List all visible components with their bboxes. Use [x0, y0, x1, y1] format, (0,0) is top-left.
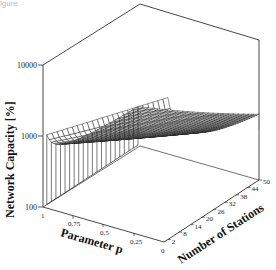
x-tick: 1 — [41, 212, 45, 220]
surface-chart: igure 10000 1000 100 Network Capacity [%… — [0, 0, 276, 270]
z-tick-10000: 10000 — [17, 61, 37, 70]
y-tick: 20 — [206, 215, 214, 223]
y-tick: 32 — [229, 200, 237, 208]
x-tick: 0,25 — [130, 238, 143, 246]
z-tick-1000: 1000 — [21, 132, 37, 141]
y-tick: 26 — [217, 208, 225, 216]
y-tick: 50 — [263, 178, 271, 186]
x-axis-label: Parameter p — [59, 225, 125, 256]
y-tick: 2 — [172, 238, 176, 246]
z-axis-label: Network Capacity [%] — [3, 101, 17, 218]
wireframe-surface — [47, 98, 259, 205]
y-origin-tick: 0 — [161, 247, 165, 255]
caption-fragment: igure — [0, 0, 18, 8]
x-axis: 1 0,75 0,5 0,25 Parameter p — [41, 212, 143, 257]
y-tick: 8 — [183, 230, 187, 238]
z-tick-100: 100 — [25, 203, 37, 212]
y-axis: 0 2814202632384450 Number of Stations — [161, 178, 271, 267]
y-tick: 44 — [252, 185, 260, 193]
y-tick: 14 — [195, 223, 203, 231]
y-tick: 38 — [240, 193, 248, 201]
z-axis: 10000 1000 100 Network Capacity [%] — [3, 61, 43, 218]
